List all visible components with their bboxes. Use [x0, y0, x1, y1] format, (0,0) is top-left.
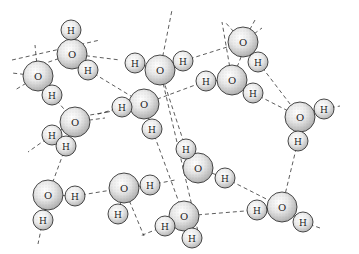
oxygen-label: O [120, 183, 128, 194]
water-hbond-diagram: OHHOHOHHOHOHHOHHOHHOHHOHHOHHOHHOHHOHH [0, 0, 359, 254]
oxygen-label: O [71, 117, 79, 128]
hydrogen-atom: H [140, 175, 160, 195]
water-molecule: OHH [112, 89, 162, 139]
hydrogen-atom: H [78, 60, 98, 80]
hydrogen-atom: H [293, 212, 313, 232]
water-molecule: OHH [42, 107, 90, 156]
hydrogen-label: H [39, 216, 47, 226]
water-molecule: OHH [108, 173, 160, 224]
hydrogen-atom: H [65, 186, 85, 206]
hydrogen-atom: H [33, 210, 53, 230]
hydrogen-atom: H [108, 204, 128, 224]
hydrogen-atom: H [243, 83, 263, 103]
hydrogen-atom: H [142, 119, 162, 139]
oxygen-atom: O [109, 173, 139, 203]
oxygen-atom: O [145, 55, 175, 85]
oxygen-atom: O [129, 89, 159, 119]
hydrogen-atom: H [176, 139, 196, 159]
hydrogen-atom: H [215, 168, 235, 188]
hydrogen-atom: H [248, 52, 268, 72]
hydrogen-atom: H [155, 216, 175, 236]
hydrogen-label: H [182, 145, 190, 155]
oxygen-atom: O [228, 27, 258, 57]
oxygen-label: O [140, 99, 148, 110]
oxygen-label: O [156, 65, 164, 76]
oxygen-label: O [296, 112, 304, 123]
hydrogen-atom: H [314, 99, 334, 119]
hydrogen-label: H [131, 59, 139, 69]
oxygen-label: O [194, 163, 202, 174]
hydrogen-label: H [48, 91, 56, 101]
hydrogen-label: H [118, 103, 126, 113]
water-molecule: OHH [125, 51, 193, 85]
hydrogen-atom: H [173, 51, 193, 71]
hydrogen-label: H [249, 89, 257, 99]
hydrogen-atom: H [125, 53, 145, 73]
hydrogen-label: H [202, 77, 210, 87]
oxygen-atom: O [217, 65, 247, 95]
hydrogen-label: H [221, 174, 229, 184]
oxygen-label: O [44, 190, 52, 201]
water-molecule: OHH [155, 201, 202, 248]
oxygen-label: O [180, 211, 188, 222]
hydrogen-atom: H [42, 85, 62, 105]
water-molecule: OHH [247, 192, 313, 232]
hydrogen-label: H [299, 218, 307, 228]
water-molecule: OH [23, 61, 62, 105]
water-molecule: OHH [57, 20, 98, 80]
oxygen-atom: O [60, 107, 90, 137]
hydrogen-atom: H [247, 200, 267, 220]
atoms: OHHOHOHHOHOHHOHHOHHOHHOHHOHHOHHOHHOHH [23, 20, 334, 248]
oxygen-atom: O [285, 102, 315, 132]
hydrogen-label: H [294, 137, 302, 147]
hydrogen-label: H [188, 234, 196, 244]
hydrogen-atom: H [112, 97, 132, 117]
hydrogen-label: H [48, 131, 56, 141]
oxygen-label: O [68, 49, 76, 60]
hydrogen-label: H [253, 206, 261, 216]
hydrogen-atom: H [61, 20, 81, 40]
oxygen-label: O [34, 71, 42, 82]
hydrogen-label: H [320, 105, 328, 115]
oxygen-label: O [278, 202, 286, 213]
hydrogen-label: H [67, 26, 75, 36]
hydrogen-atom: H [182, 228, 202, 248]
hydrogen-label: H [62, 142, 70, 152]
oxygen-atom: O [267, 192, 297, 222]
oxygen-atom: O [33, 180, 63, 210]
hydrogen-atom: H [196, 71, 216, 91]
oxygen-label: O [239, 37, 247, 48]
hydrogen-label: H [254, 58, 262, 68]
hydrogen-label: H [148, 125, 156, 135]
hydrogen-atom: H [288, 131, 308, 151]
oxygen-label: O [228, 75, 236, 86]
hydrogen-label: H [71, 192, 79, 202]
water-molecule: OHH [176, 139, 235, 188]
hydrogen-atom: H [56, 136, 76, 156]
hydrogen-label: H [84, 66, 92, 76]
hydrogen-label: H [146, 181, 154, 191]
hydrogen-label: H [161, 222, 169, 232]
hydrogen-label: H [114, 210, 122, 220]
water-molecule: OHH [285, 99, 334, 151]
water-molecule: OHH [33, 180, 85, 230]
hydrogen-label: H [179, 57, 187, 67]
